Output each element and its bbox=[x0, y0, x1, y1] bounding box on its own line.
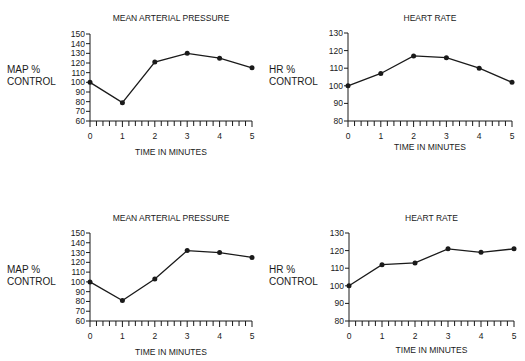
chart-map-top: MEAN ARTERIAL PRESSUREMAP %CONTROL607080… bbox=[0, 0, 262, 180]
y-axis-label: MAP % bbox=[7, 264, 40, 275]
y-tick-label: 60 bbox=[76, 116, 86, 126]
x-tick-label: 0 bbox=[88, 331, 93, 341]
data-point bbox=[411, 53, 416, 58]
y-tick-label: 90 bbox=[76, 287, 86, 297]
y-tick-label: 100 bbox=[330, 281, 344, 291]
y-tick-label: 150 bbox=[71, 29, 85, 39]
y-tick-label: 70 bbox=[76, 306, 86, 316]
data-point bbox=[250, 65, 255, 70]
x-axis-label: TIME IN MINUTES bbox=[396, 345, 468, 355]
y-axis-label: CONTROL bbox=[269, 76, 318, 87]
data-point bbox=[347, 283, 352, 288]
data-point bbox=[217, 250, 222, 255]
x-tick-label: 5 bbox=[250, 331, 255, 341]
y-tick-label: 110 bbox=[329, 63, 343, 73]
y-tick-label: 110 bbox=[71, 68, 85, 78]
chart-title: HEART RATE bbox=[404, 13, 457, 23]
data-line bbox=[348, 56, 512, 86]
x-tick-label: 4 bbox=[217, 331, 222, 341]
y-tick-label: 90 bbox=[76, 87, 86, 97]
y-tick-label: 100 bbox=[71, 277, 85, 287]
y-tick-label: 130 bbox=[330, 228, 344, 238]
x-tick-label: 2 bbox=[411, 131, 416, 141]
y-tick-label: 120 bbox=[330, 246, 344, 256]
x-tick-label: 5 bbox=[512, 331, 517, 341]
y-tick-label: 110 bbox=[71, 267, 85, 277]
chart-svg: HEART RATEHR %CONTROL8090100110120130012… bbox=[262, 180, 525, 361]
y-tick-label: 150 bbox=[71, 228, 85, 238]
data-point bbox=[512, 246, 517, 251]
x-tick-label: 1 bbox=[120, 131, 125, 141]
data-point bbox=[185, 248, 190, 253]
y-tick-label: 130 bbox=[71, 248, 85, 258]
data-point bbox=[477, 66, 482, 71]
data-point bbox=[120, 100, 125, 105]
y-tick-label: 90 bbox=[334, 98, 344, 108]
chart-svg: MEAN ARTERIAL PRESSUREMAP %CONTROL607080… bbox=[0, 0, 262, 180]
data-point bbox=[88, 80, 93, 85]
y-axis-label: CONTROL bbox=[269, 276, 318, 287]
data-line bbox=[90, 251, 252, 301]
y-tick-label: 100 bbox=[71, 77, 85, 87]
data-point bbox=[152, 276, 157, 281]
y-axis-label: MAP % bbox=[7, 64, 40, 75]
chart-svg: MEAN ARTERIAL PRESSUREMAP %CONTROL607080… bbox=[0, 180, 262, 361]
y-tick-label: 110 bbox=[330, 263, 344, 273]
y-axis-label: HR % bbox=[269, 264, 295, 275]
x-axis-label: TIME IN MINUTES bbox=[394, 142, 466, 152]
data-line bbox=[349, 249, 514, 286]
x-tick-label: 2 bbox=[152, 131, 157, 141]
data-point bbox=[185, 51, 190, 56]
data-point bbox=[413, 260, 418, 265]
data-line bbox=[90, 53, 252, 102]
chart-title: HEART RATE bbox=[405, 213, 458, 223]
chart-svg: HEART RATEHR %CONTROL8090100110120130012… bbox=[262, 0, 525, 180]
x-axis-label: TIME IN MINUTES bbox=[135, 347, 207, 357]
y-axis-label: HR % bbox=[269, 64, 295, 75]
x-tick-label: 1 bbox=[120, 331, 125, 341]
data-point bbox=[217, 56, 222, 61]
x-tick-label: 4 bbox=[479, 331, 484, 341]
x-tick-label: 1 bbox=[380, 331, 385, 341]
data-point bbox=[88, 279, 93, 284]
data-point bbox=[380, 262, 385, 267]
data-point bbox=[479, 250, 484, 255]
y-tick-label: 100 bbox=[329, 81, 343, 91]
x-tick-label: 5 bbox=[510, 131, 515, 141]
data-point bbox=[152, 60, 157, 65]
y-tick-label: 80 bbox=[76, 97, 86, 107]
data-point bbox=[446, 246, 451, 251]
x-tick-label: 0 bbox=[88, 131, 93, 141]
y-tick-label: 80 bbox=[334, 116, 344, 126]
data-point bbox=[378, 71, 383, 76]
y-tick-label: 140 bbox=[71, 238, 85, 248]
data-point bbox=[444, 55, 449, 60]
y-tick-label: 120 bbox=[71, 58, 85, 68]
y-tick-label: 90 bbox=[335, 298, 345, 308]
chart-title: MEAN ARTERIAL PRESSURE bbox=[113, 213, 230, 223]
y-tick-label: 80 bbox=[335, 316, 345, 326]
y-axis-label: CONTROL bbox=[7, 276, 56, 287]
chart-map-bottom: MEAN ARTERIAL PRESSUREMAP %CONTROL607080… bbox=[0, 180, 262, 361]
x-tick-label: 1 bbox=[378, 131, 383, 141]
x-tick-label: 3 bbox=[446, 331, 451, 341]
y-tick-label: 140 bbox=[71, 39, 85, 49]
y-tick-label: 70 bbox=[76, 106, 86, 116]
data-point bbox=[510, 80, 515, 85]
y-tick-label: 130 bbox=[329, 28, 343, 38]
chart-hr-top: HEART RATEHR %CONTROL8090100110120130012… bbox=[262, 0, 525, 180]
y-tick-label: 60 bbox=[76, 316, 86, 326]
y-tick-label: 80 bbox=[76, 296, 86, 306]
chart-title: MEAN ARTERIAL PRESSURE bbox=[113, 13, 230, 23]
x-axis-label: TIME IN MINUTES bbox=[135, 147, 207, 157]
x-tick-label: 0 bbox=[347, 331, 352, 341]
x-tick-label: 5 bbox=[250, 131, 255, 141]
data-point bbox=[346, 83, 351, 88]
chart-hr-bottom: HEART RATEHR %CONTROL8090100110120130012… bbox=[262, 180, 525, 361]
y-axis-label: CONTROL bbox=[7, 76, 56, 87]
data-point bbox=[120, 298, 125, 303]
x-tick-label: 3 bbox=[185, 331, 190, 341]
data-point bbox=[250, 255, 255, 260]
x-tick-label: 0 bbox=[346, 131, 351, 141]
x-tick-label: 4 bbox=[477, 131, 482, 141]
